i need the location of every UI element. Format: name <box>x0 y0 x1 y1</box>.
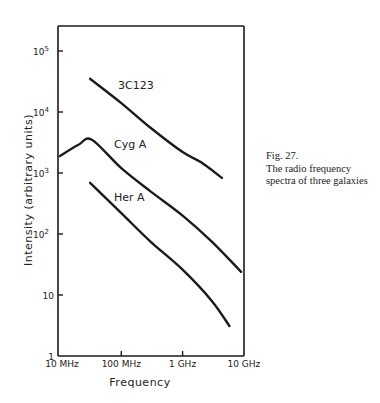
radio-spectra-chart: 110102103104105 10 MHz100 MHz1 GHz10 GHz… <box>0 0 380 403</box>
x-axis-title: Frequency <box>109 376 170 389</box>
series-label-cyg-a: Cyg A <box>114 138 147 151</box>
y-tick-label: 105 <box>33 45 49 57</box>
y-tick-label: 10 <box>43 291 55 301</box>
y-tick-label: 104 <box>33 106 49 118</box>
y-tick-label: 102 <box>33 228 49 240</box>
x-tick-label: 10 MHz <box>45 359 79 369</box>
caption-figure-number: Fig. 27. <box>266 150 368 163</box>
caption-line-3: spectra of three galaxies <box>266 175 368 188</box>
series-line-cyg-a <box>60 139 241 272</box>
x-tick-label: 10 GHz <box>228 359 261 369</box>
x-tick-label: 1 GHz <box>169 359 196 369</box>
series-lines <box>60 79 241 326</box>
x-tick-label: 100 MHz <box>102 359 142 369</box>
y-axis-title: Intensity (arbitrary units) <box>22 114 35 266</box>
series-line-her-a <box>90 183 229 326</box>
series-line-3c123 <box>90 79 222 178</box>
x-axis-ticks: 10 MHz100 MHz1 GHz10 GHz <box>45 351 260 369</box>
caption-line-2: The radio frequency <box>266 163 368 176</box>
figure-caption: Fig. 27. The radio frequency spectra of … <box>266 150 368 188</box>
series-label-her-a: Her A <box>114 191 145 204</box>
y-tick-label: 103 <box>33 167 49 179</box>
series-label-3c123: 3C123 <box>118 79 154 92</box>
